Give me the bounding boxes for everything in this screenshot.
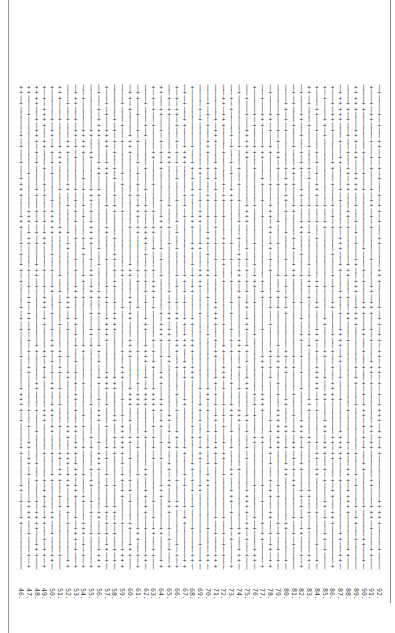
grid-column: |+|||++||+||+|++|||++|+||+++|||+|||+||||… — [297, 84, 305, 568]
row-label-text: 79. — [274, 588, 282, 612]
grid-column: |||++|||||||+|||+||+||||||||||+|||+|+|||… — [360, 84, 368, 568]
grid-column: ||++|+++||||+|||||+|++||+|||++||++||+|||… — [219, 84, 227, 568]
grid-symbol: + — [72, 563, 80, 568]
grid-symbol: + — [173, 563, 181, 568]
grid-symbol: + — [157, 563, 165, 568]
row-labels: 46.47.48.49.50.51.52.53.54.55.56.57.58.5… — [17, 586, 383, 616]
row-label: 51. — [56, 586, 64, 614]
grid-symbol: | — [375, 563, 383, 568]
grid-column: ||||+|+||||||||++||+|+|+++|||++|||++++||… — [196, 84, 204, 568]
grid-column: +++|||+||||++++||||+||||||++|||||||+||+|… — [56, 84, 64, 568]
grid-column: ++++||+|+++|+|+||||++||+|+|+|+|||+++|+||… — [33, 84, 41, 568]
row-label-text: 51. — [56, 588, 64, 612]
grid-column: |+|||+|+||++|+|+|+||+|++|+||++||||+++|||… — [375, 84, 383, 568]
row-label-text: 69. — [196, 588, 204, 612]
grid-symbol: | — [219, 563, 227, 568]
row-label-text: 56. — [95, 588, 103, 612]
row-label-text: 64. — [157, 588, 165, 612]
row-label-text: 74. — [235, 588, 243, 612]
symbol-grid: ++|+|||||+|+||+||++++|||+++||+|+|++|+|||… — [17, 84, 383, 568]
grid-symbol: + — [297, 563, 305, 568]
row-label-text: 61. — [134, 588, 142, 612]
grid-symbol: | — [235, 563, 243, 568]
row-label: 66. — [173, 586, 181, 614]
row-label: 64. — [157, 586, 165, 614]
grid-column: +|+|++|+||+|+|+||+|||+|||+|+||+||||+|+||… — [173, 84, 181, 568]
row-label-text: 66. — [173, 588, 181, 612]
grid-column: |+||+|++++||||+++||++|||||||||+||+||||++… — [95, 84, 103, 568]
page-border-left — [8, 0, 9, 633]
grid-column: +|+|||++|+||||||||||||+||++||||||||||+||… — [321, 84, 329, 568]
grid-column: |++++++|||+||++||||+|+||||+|+++||++|||++… — [336, 84, 344, 568]
grid-symbol: + — [118, 563, 126, 568]
grid-symbol: | — [321, 563, 329, 568]
grid-symbol: + — [95, 563, 103, 568]
row-label: 79. — [274, 586, 282, 614]
grid-column: |||+|||+||+|||||+|+||||+||||||||||++||||… — [118, 84, 126, 568]
grid-column: |+++||+|++|+|+|||||+|+|+|+||+|||+|+||+++… — [72, 84, 80, 568]
document-page: ++|+|||||+|+||+||++++|||+++||+|+|++|+|||… — [0, 0, 395, 633]
grid-symbol: | — [33, 563, 41, 568]
grid-symbol: | — [360, 563, 368, 568]
row-label: 74. — [235, 586, 243, 614]
grid-column: |+|||||||||+|||+||+||+|||+||+||++|+++|++… — [235, 84, 243, 568]
grid-symbol: | — [56, 563, 64, 568]
grid-symbol: + — [134, 563, 142, 568]
page-border-right — [390, 0, 391, 603]
row-label: 61. — [134, 586, 142, 614]
grid-symbol: + — [258, 563, 266, 568]
grid-column: ||+||+++|||+++|||++||+||+|||||||||||+|++… — [258, 84, 266, 568]
row-label: 69. — [196, 586, 204, 614]
grid-column: |++||+||+|+|||+|+|+|+|+++|++||||||+|+|||… — [134, 84, 142, 568]
row-label-text: 92. — [375, 588, 383, 612]
grid-symbol: | — [336, 563, 344, 568]
row-label: 56. — [95, 586, 103, 614]
grid-column: |||||+||+|+|++|+||+||||||+|||+|||||+||++… — [274, 84, 282, 568]
grid-symbol: | — [274, 563, 282, 568]
row-label: 92. — [375, 586, 383, 614]
grid-column: ++||++||+|+|+|++|||||+||+++|||+|+||+||||… — [157, 84, 165, 568]
grid-symbol: | — [196, 563, 204, 568]
